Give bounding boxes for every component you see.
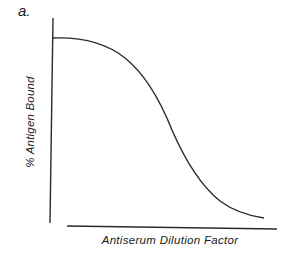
x-axis (67, 226, 277, 229)
plot-area (0, 0, 294, 258)
y-axis-label: % Antigen Bound (24, 76, 36, 167)
binding-curve (53, 38, 264, 218)
x-axis-label: Antiserum Dilution Factor (102, 234, 239, 246)
panel-label: a. (18, 2, 31, 19)
chart: a. % Antigen Bound Antiserum Dilution Fa… (0, 0, 294, 258)
y-axis (50, 18, 53, 223)
